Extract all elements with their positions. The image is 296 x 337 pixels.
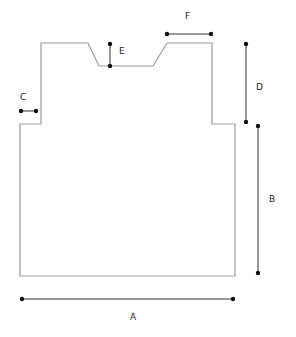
endpoint-dot-b bbox=[256, 271, 260, 275]
schematic-canvas bbox=[0, 0, 296, 337]
label-b: B bbox=[269, 195, 275, 204]
endpoint-dot-e bbox=[108, 64, 112, 68]
endpoint-dot-d bbox=[244, 120, 248, 124]
label-a: A bbox=[130, 313, 136, 322]
endpoint-dot-a bbox=[20, 297, 24, 301]
endpoint-dot-e bbox=[108, 42, 112, 46]
endpoint-dot-c bbox=[34, 109, 38, 113]
label-e: E bbox=[119, 47, 125, 56]
endpoint-dot-b bbox=[256, 124, 260, 128]
dimension-lines bbox=[19, 32, 260, 301]
endpoint-dot-c bbox=[19, 109, 23, 113]
label-c: C bbox=[20, 93, 26, 102]
label-d: D bbox=[256, 83, 263, 92]
label-f: F bbox=[185, 12, 190, 21]
endpoint-dot-f bbox=[165, 32, 169, 36]
endpoint-dot-d bbox=[244, 42, 248, 46]
garment-outline bbox=[20, 43, 235, 276]
endpoint-dot-a bbox=[231, 297, 235, 301]
endpoint-dot-f bbox=[209, 32, 213, 36]
